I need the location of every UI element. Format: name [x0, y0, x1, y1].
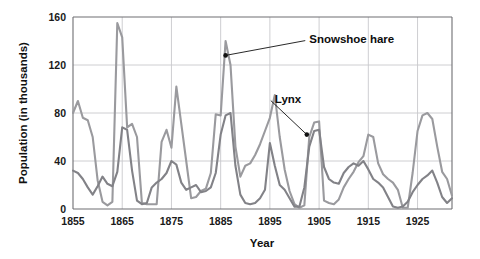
- y-tick-label-40: 40: [54, 155, 66, 167]
- annotation-dot-snowshoe-hare: [223, 53, 228, 58]
- annotation-label-lynx: Lynx: [275, 93, 302, 105]
- x-tick-label-1865: 1865: [111, 215, 135, 227]
- x-tick-label-1895: 1895: [258, 215, 282, 227]
- x-tick-label-1905: 1905: [307, 215, 331, 227]
- y-tick-label-120: 120: [48, 59, 66, 71]
- y-axis-title: Population (in thousands): [17, 42, 29, 184]
- x-tick-label-1915: 1915: [357, 215, 381, 227]
- chart-svg: 04080120160 1855186518751885189519051915…: [0, 0, 480, 259]
- x-tick-label-1875: 1875: [160, 215, 184, 227]
- population-cycle-chart-figure: 04080120160 1855186518751885189519051915…: [0, 0, 480, 259]
- annotation-label-snowshoe-hare: Snowshoe hare: [309, 33, 394, 45]
- y-tick-label-160: 160: [48, 11, 66, 23]
- x-axis-title: Year: [250, 237, 275, 249]
- y-tick-label-80: 80: [54, 107, 66, 119]
- x-tick-label-1925: 1925: [406, 215, 430, 227]
- y-tick-label-0: 0: [60, 203, 66, 215]
- x-tick-label-1855: 1855: [61, 215, 85, 227]
- annotation-dot-lynx: [304, 132, 309, 137]
- x-tick-label-1885: 1885: [209, 215, 233, 227]
